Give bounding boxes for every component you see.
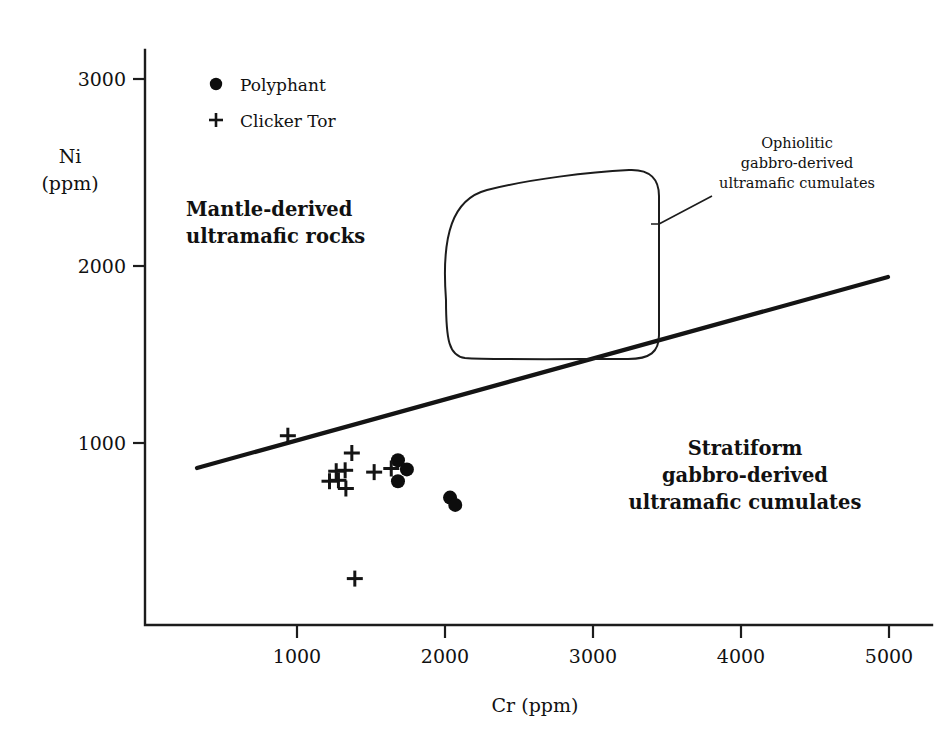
- ophiolitic-leader-line: [651, 196, 712, 224]
- data-point-polyphant: [391, 474, 405, 488]
- stratiform-label-line3: ultramafic cumulates: [629, 491, 862, 514]
- scatter-plot-figure: 3000 2000 1000 Ni (ppm) 1000 2000 3000 4…: [0, 0, 946, 735]
- x-axis-ticks: [297, 625, 889, 638]
- data-point-polyphant: [448, 498, 462, 512]
- ophiolitic-label-line2: gabbro-derived: [741, 155, 854, 171]
- x-axis-title: Cr (ppm): [492, 694, 579, 716]
- legend-label-clicker-tor: Clicker Tor: [240, 111, 337, 131]
- series-clicker-tor: [280, 428, 399, 587]
- x-tick-label-1000: 1000: [273, 645, 321, 667]
- x-tick-label-4000: 4000: [717, 645, 765, 667]
- ophiolitic-field-label: Ophiolitic gabbro-derived ultramafic cum…: [719, 135, 875, 191]
- ophiolitic-label-line1: Ophiolitic: [761, 135, 833, 151]
- stratiform-field-label: Stratiform gabbro-derived ultramafic cum…: [629, 437, 862, 514]
- ophiolitic-field-outline: [445, 170, 659, 359]
- x-tick-label-5000: 5000: [865, 645, 913, 667]
- y-axis-ticks: [133, 79, 145, 443]
- mantle-label-line2: ultramafic rocks: [186, 225, 365, 248]
- legend-marker-clicker-tor-icon: [209, 113, 223, 127]
- mantle-derived-field-label: Mantle-derived ultramafic rocks: [186, 198, 365, 248]
- data-point-clicker-tor: [344, 445, 360, 461]
- plot-canvas: 3000 2000 1000 Ni (ppm) 1000 2000 3000 4…: [0, 0, 946, 735]
- data-point-clicker-tor: [366, 464, 382, 480]
- data-points-layer: [280, 428, 462, 587]
- series-polyphant: [391, 453, 462, 512]
- legend-label-polyphant: Polyphant: [240, 75, 326, 95]
- legend-marker-polyphant-icon: [210, 78, 222, 90]
- data-point-polyphant: [400, 462, 414, 476]
- legend: Polyphant Clicker Tor: [209, 75, 337, 131]
- y-tick-label-1000: 1000: [78, 432, 126, 454]
- y-axis-title-line1: Ni: [59, 145, 82, 167]
- stratiform-label-line1: Stratiform: [688, 437, 803, 460]
- x-tick-label-2000: 2000: [421, 645, 469, 667]
- y-tick-label-2000: 2000: [78, 255, 126, 277]
- ophiolitic-label-line3: ultramafic cumulates: [719, 175, 875, 191]
- x-tick-label-3000: 3000: [569, 645, 617, 667]
- data-point-clicker-tor: [347, 571, 363, 587]
- data-point-clicker-tor: [338, 481, 354, 497]
- stratiform-label-line2: gabbro-derived: [662, 464, 828, 487]
- mantle-label-line1: Mantle-derived: [186, 198, 353, 221]
- y-axis-title-line2: (ppm): [41, 172, 98, 194]
- y-tick-label-3000: 3000: [78, 68, 126, 90]
